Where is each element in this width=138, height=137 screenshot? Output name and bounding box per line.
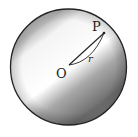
sphere-diagram: P O r — [0, 0, 138, 137]
label-p: P — [92, 19, 101, 34]
point-p-marker — [103, 32, 106, 35]
label-o: O — [56, 66, 67, 81]
